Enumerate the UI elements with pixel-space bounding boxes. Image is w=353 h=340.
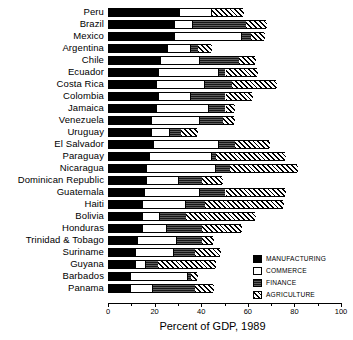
bar-segment-finance bbox=[174, 249, 195, 256]
bar-segment-manufacturing bbox=[109, 177, 146, 184]
bar-segment-finance bbox=[146, 261, 158, 268]
x-tick-minor bbox=[318, 303, 319, 306]
category-label: Guyana bbox=[0, 259, 104, 268]
bar-segment-commerce bbox=[174, 21, 193, 28]
legend-swatch-finance-icon bbox=[253, 279, 262, 287]
x-tick-label: 0 bbox=[96, 308, 120, 316]
bar-segment-commerce bbox=[156, 105, 210, 112]
stacked-bar bbox=[108, 272, 197, 281]
bar-segment-finance bbox=[200, 57, 240, 64]
x-tick-label: 40 bbox=[189, 308, 213, 316]
bar-segment-finance bbox=[170, 129, 182, 136]
bar-segment-agriculture bbox=[181, 129, 197, 136]
bar-segment-agriculture bbox=[198, 45, 212, 52]
bar-segment-agriculture bbox=[226, 93, 254, 100]
legend-label: MANUFACTURING bbox=[266, 255, 326, 263]
category-label: Barbados bbox=[0, 271, 104, 280]
x-tick-minor bbox=[271, 303, 272, 306]
bar-segment-finance bbox=[219, 69, 226, 76]
bar-segment-finance bbox=[216, 165, 230, 172]
stacked-bar bbox=[108, 80, 276, 89]
bar-segment-agriculture bbox=[202, 237, 214, 244]
bar-segment-finance bbox=[200, 189, 226, 196]
bar-segment-agriculture bbox=[232, 81, 276, 88]
bar-segment-manufacturing bbox=[109, 261, 135, 268]
bar-segment-manufacturing bbox=[109, 117, 151, 124]
category-label: Venezuela bbox=[0, 115, 104, 124]
legend-label: COMMERCE bbox=[266, 267, 307, 275]
bar-segment-manufacturing bbox=[109, 33, 174, 40]
chart-legend: MANUFACTURINGCOMMERCEFINANCEAGRICULTURE bbox=[253, 253, 351, 301]
bar-segment-agriculture bbox=[216, 153, 286, 160]
bar-row bbox=[108, 44, 341, 53]
category-label: Dominican Republic bbox=[0, 175, 104, 184]
category-label: Guatemala bbox=[0, 187, 104, 196]
bar-segment-commerce bbox=[142, 213, 161, 220]
bar-segment-agriculture bbox=[230, 165, 298, 172]
bar-segment-manufacturing bbox=[109, 285, 130, 292]
category-label: Trinidad & Tobago bbox=[0, 235, 104, 244]
bar-segment-commerce bbox=[135, 249, 175, 256]
bar-row bbox=[108, 224, 341, 233]
bar-segment-finance bbox=[205, 81, 233, 88]
stacked-bar bbox=[108, 176, 222, 185]
bar-segment-commerce bbox=[156, 81, 205, 88]
bar-row bbox=[108, 212, 341, 221]
bar-row bbox=[108, 104, 341, 113]
stacked-bar bbox=[108, 32, 264, 41]
bar-row bbox=[108, 128, 341, 137]
bar-segment-agriculture bbox=[251, 33, 265, 40]
bar-segment-commerce bbox=[146, 165, 216, 172]
bar-segment-finance bbox=[219, 141, 235, 148]
category-label: Suriname bbox=[0, 247, 104, 256]
x-tick-label: 80 bbox=[282, 308, 306, 316]
stacked-bar bbox=[108, 56, 255, 65]
bar-segment-agriculture bbox=[202, 177, 223, 184]
bar-segment-finance bbox=[191, 45, 198, 52]
bar-segment-manufacturing bbox=[109, 225, 142, 232]
category-label: Nicaragua bbox=[0, 163, 104, 172]
x-tick-label: 20 bbox=[143, 308, 167, 316]
bar-segment-commerce bbox=[135, 261, 147, 268]
stacked-bar bbox=[108, 236, 213, 245]
category-label: Paraguay bbox=[0, 151, 104, 160]
stacked-bar bbox=[108, 164, 297, 173]
bar-segment-agriculture bbox=[226, 105, 235, 112]
bar-segment-commerce bbox=[142, 225, 168, 232]
category-label: Uruguay bbox=[0, 127, 104, 136]
bar-segment-commerce bbox=[137, 237, 177, 244]
bar-segment-finance bbox=[209, 105, 225, 112]
bar-segment-manufacturing bbox=[109, 213, 142, 220]
bar-segment-agriculture bbox=[246, 21, 267, 28]
legend-label: AGRICULTURE bbox=[266, 291, 315, 299]
category-label: Chile bbox=[0, 55, 104, 64]
bar-segment-commerce bbox=[149, 153, 212, 160]
x-axis-title: Percent of GDP, 1989 bbox=[0, 320, 353, 332]
stacked-bar bbox=[108, 248, 220, 257]
bar-segment-manufacturing bbox=[109, 237, 137, 244]
bar-segment-manufacturing bbox=[109, 45, 167, 52]
stacked-bar bbox=[108, 128, 197, 137]
stacked-bar bbox=[108, 152, 285, 161]
category-label: Ecuador bbox=[0, 67, 104, 76]
stacked-bar bbox=[108, 44, 211, 53]
legend-item-manufacturing: MANUFACTURING bbox=[253, 253, 351, 264]
bar-row bbox=[108, 80, 341, 89]
legend-swatch-agriculture-icon bbox=[253, 291, 262, 299]
bar-segment-agriculture bbox=[191, 273, 198, 280]
bar-segment-commerce bbox=[174, 33, 242, 40]
bar-segment-finance bbox=[177, 237, 203, 244]
bar-segment-agriculture bbox=[226, 69, 259, 76]
bar-segment-finance bbox=[153, 285, 195, 292]
category-label: Mexico bbox=[0, 31, 104, 40]
legend-item-commerce: COMMERCE bbox=[253, 265, 351, 276]
bar-segment-manufacturing bbox=[109, 273, 130, 280]
bar-segment-manufacturing bbox=[109, 69, 158, 76]
bar-segment-manufacturing bbox=[109, 57, 160, 64]
bar-row bbox=[108, 8, 341, 17]
x-tick-minor bbox=[131, 303, 132, 306]
legend-label: FINANCE bbox=[266, 279, 296, 287]
bar-segment-agriculture bbox=[226, 189, 287, 196]
bar-segment-manufacturing bbox=[109, 129, 151, 136]
stacked-bar bbox=[108, 104, 234, 113]
